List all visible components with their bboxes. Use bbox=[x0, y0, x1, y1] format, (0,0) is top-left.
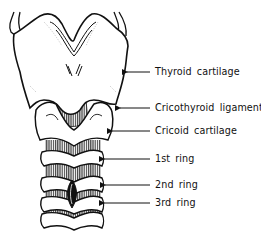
label-cricoid-cartilage: Cricoid cartilage bbox=[155, 126, 237, 136]
label-text: Cricothyroid ligament bbox=[155, 102, 261, 113]
larynx-illustration bbox=[0, 0, 261, 243]
label-second-ring: 2nd ring bbox=[155, 180, 198, 190]
label-third-ring: 3rd ring bbox=[155, 198, 196, 208]
label-thyroid-cartilage: Thyroid cartilage bbox=[155, 67, 240, 77]
label-text: 3rd ring bbox=[155, 197, 196, 208]
label-text: 2nd ring bbox=[155, 179, 198, 190]
label-text: Thyroid cartilage bbox=[155, 66, 240, 77]
thyroid-cartilage-shape bbox=[13, 14, 128, 115]
label-text: Cricoid cartilage bbox=[155, 125, 237, 136]
larynx-diagram: Thyroid cartilage Cricothyroid ligament … bbox=[0, 0, 261, 243]
label-text: 1st ring bbox=[155, 153, 195, 164]
label-cricothyroid-ligament: Cricothyroid ligament bbox=[155, 103, 261, 113]
label-first-ring: 1st ring bbox=[155, 154, 195, 164]
